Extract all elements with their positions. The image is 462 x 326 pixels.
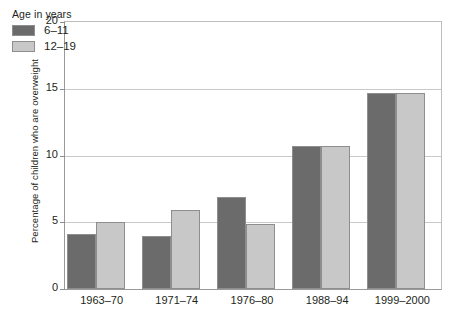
y-axis-tick-label: 5	[38, 215, 58, 226]
bar-group	[292, 22, 350, 289]
x-axis-tick-label: 1971–74	[139, 294, 214, 306]
bar	[321, 146, 350, 289]
y-axis-tick-label: 0	[38, 282, 58, 293]
x-axis-tick-label: 1963–70	[64, 294, 139, 306]
bar-chart-figure: Percentage of children who are overweigh…	[0, 0, 462, 326]
x-axis-tick-label: 1988–94	[290, 294, 365, 306]
legend-title: Age in years	[12, 8, 142, 20]
legend-item: 12–19	[12, 39, 142, 54]
bar-group	[142, 22, 200, 289]
legend-label-series-2: 12–19	[44, 41, 76, 52]
legend-item: 6–11	[12, 23, 142, 38]
bar	[67, 234, 96, 289]
bar-group	[67, 22, 125, 289]
plot-area	[64, 21, 442, 290]
bar	[292, 146, 321, 289]
x-axis-tick-label: 1999–2000	[365, 294, 440, 306]
legend-swatch-series-2	[12, 41, 35, 52]
y-axis-tick-label: 10	[38, 149, 58, 160]
bar-group	[217, 22, 275, 289]
y-axis-tick	[60, 222, 65, 223]
x-axis-tick-labels: 1963–701971–741976–801988–941999–2000	[64, 294, 442, 314]
bar	[217, 197, 246, 289]
y-axis-tick	[60, 89, 65, 90]
bar	[246, 224, 275, 289]
x-axis-tick-label: 1976–80	[214, 294, 289, 306]
bar-group	[367, 22, 425, 289]
bar	[396, 93, 425, 289]
bar	[367, 93, 396, 289]
y-axis-tick-label: 15	[38, 82, 58, 93]
y-axis-tick	[60, 289, 65, 290]
bar	[96, 222, 125, 289]
legend-label-series-1: 6–11	[44, 25, 69, 36]
bar	[142, 236, 171, 289]
y-axis-tick	[60, 156, 65, 157]
bar	[171, 210, 200, 289]
legend: Age in years 6–11 12–19	[12, 8, 142, 55]
legend-swatch-series-1	[12, 25, 35, 36]
